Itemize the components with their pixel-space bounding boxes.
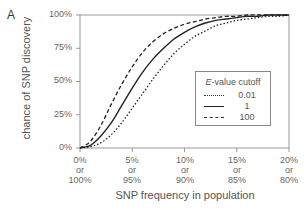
legend-title: E-value cutoff [196, 77, 270, 87]
dotted-line-icon [204, 95, 224, 96]
dashed-line-icon [204, 117, 224, 118]
legend-label: 0.01 [230, 90, 264, 100]
legend-item-100: 100 [204, 112, 266, 124]
solid-line-icon [204, 106, 224, 107]
legend-title-rest: -value cutoff [212, 77, 261, 87]
legend: E-value cutoff 0.01 1 100 [195, 71, 271, 126]
legend-label: 1 [230, 101, 264, 111]
legend-label: 100 [230, 112, 264, 122]
chart: A chance of SNP discovery SNP frequency … [0, 0, 304, 210]
